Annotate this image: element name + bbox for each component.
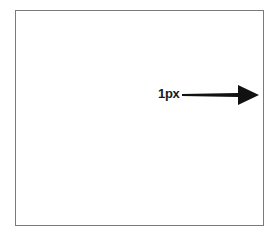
bordered-box: [15, 10, 264, 226]
arrow-right-icon: [182, 84, 260, 106]
measurement-label: 1px: [158, 86, 180, 102]
